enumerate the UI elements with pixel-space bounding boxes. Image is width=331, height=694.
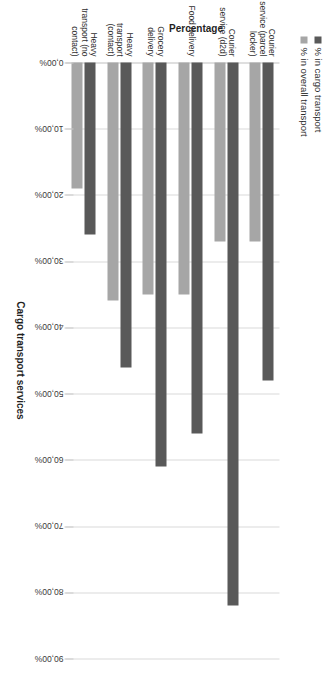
tick-mark	[64, 526, 73, 527]
bar-group	[68, 62, 98, 658]
tick-mark	[64, 327, 73, 328]
bar-1	[249, 62, 260, 241]
bar-1	[142, 62, 153, 294]
tick-mark	[64, 393, 73, 394]
rotated-figure: % in cargo transport% in overall transpo…	[0, 0, 331, 694]
legend-label: % in overall transport	[298, 47, 309, 136]
tick-mark	[64, 592, 73, 593]
tick-label: 40,00%	[34, 322, 63, 332]
bar-group	[104, 62, 134, 658]
legend-item: % in overall transport	[298, 36, 309, 136]
bar-group	[139, 62, 169, 658]
bar-1	[214, 62, 225, 241]
bar-0	[84, 62, 95, 234]
tick-label: 0,00%	[39, 57, 63, 67]
legend-label: % in cargo transport	[312, 47, 323, 132]
bar-group	[246, 62, 276, 658]
legend-swatch-icon	[314, 36, 321, 43]
bar-groups	[65, 62, 279, 658]
plot-area	[65, 62, 279, 658]
value-axis-title: Percentage	[96, 23, 296, 34]
bar-group	[175, 62, 205, 658]
bar-0	[262, 62, 273, 380]
tick-label: 30,00%	[34, 256, 63, 266]
chart-canvas: % in cargo transport% in overall transpo…	[0, 0, 331, 694]
legend-item: % in cargo transport	[312, 36, 323, 136]
tick-label: 70,00%	[34, 521, 63, 531]
tick-mark	[64, 459, 73, 460]
tick-label: 20,00%	[34, 189, 63, 199]
bar-0	[155, 62, 166, 466]
tick-mark	[64, 658, 73, 659]
tick-mark	[64, 62, 73, 63]
tick-label: 50,00%	[34, 388, 63, 398]
tick-label: 10,00%	[34, 123, 63, 133]
tick-mark	[64, 194, 73, 195]
tick-label: 80,00%	[34, 587, 63, 597]
chart-legend: % in cargo transport% in overall transpo…	[298, 36, 323, 136]
tick-label: 90,00%	[34, 653, 63, 663]
tick-mark	[64, 128, 73, 129]
bar-chart-figure: % in cargo transport% in overall transpo…	[0, 0, 331, 694]
bar-group	[211, 62, 241, 658]
bar-0	[120, 62, 131, 367]
category-label: Heavy transport (no contact)	[68, 0, 98, 60]
tick-label: 60,00%	[34, 454, 63, 464]
bar-1	[107, 62, 118, 300]
category-axis-title: Cargo transport services	[14, 62, 25, 658]
bar-1	[178, 62, 189, 294]
bar-0	[227, 62, 238, 605]
bar-0	[191, 62, 202, 433]
bar-1	[71, 62, 82, 188]
tick-mark	[64, 261, 73, 262]
legend-swatch-icon	[300, 36, 307, 43]
